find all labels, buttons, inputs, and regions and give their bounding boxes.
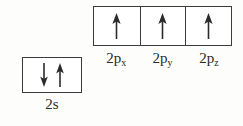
- orbital-label-row-2p: 2px 2py 2pz: [93, 51, 232, 66]
- orbital-box-row-2p: [93, 6, 232, 46]
- up-arrow-icon: [111, 13, 122, 39]
- orbital-label-2s: 2s: [22, 97, 82, 112]
- orbital-label-2py-subscript: y: [168, 57, 173, 68]
- orbital-box-diagram: 2px 2py 2pz 2s: [0, 0, 243, 126]
- orbital-label-2px-base: 2p: [106, 50, 121, 66]
- orbital-box-row-2s: [22, 57, 82, 93]
- orbital-group-2s: 2s: [22, 57, 82, 112]
- orbital-label-2py: 2py: [139, 51, 185, 66]
- orbital-label-2py-base: 2p: [153, 50, 168, 66]
- orbital-box-2pz[interactable]: [185, 7, 231, 45]
- orbital-label-2s-base: 2s: [45, 96, 58, 112]
- orbital-label-2px-subscript: x: [121, 57, 126, 68]
- orbital-label-2pz-base: 2p: [199, 50, 214, 66]
- orbital-label-2pz-subscript: z: [214, 57, 218, 68]
- orbital-box-2px[interactable]: [94, 7, 140, 45]
- orbital-label-2px: 2px: [93, 51, 139, 66]
- up-arrow-icon: [203, 13, 214, 39]
- orbital-box-2py[interactable]: [140, 7, 186, 45]
- up-arrow-icon: [55, 63, 65, 87]
- orbital-label-row-2s: 2s: [22, 97, 82, 112]
- down-arrow-icon: [39, 63, 49, 87]
- orbital-label-2pz: 2pz: [186, 51, 232, 66]
- orbital-box-2s[interactable]: [23, 58, 81, 92]
- orbital-group-2p: 2px 2py 2pz: [93, 6, 232, 66]
- up-arrow-icon: [157, 13, 168, 39]
